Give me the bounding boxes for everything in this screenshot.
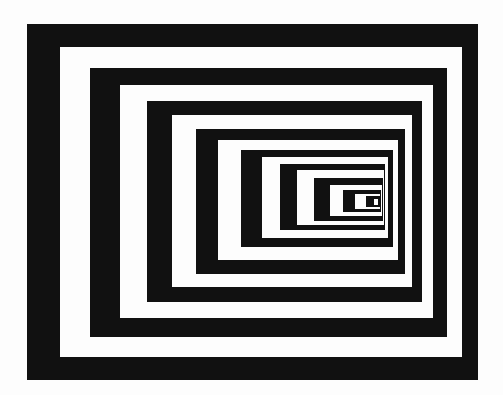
op-art-tunnel [0, 0, 503, 395]
tunnel-rect-18-white [374, 199, 378, 205]
